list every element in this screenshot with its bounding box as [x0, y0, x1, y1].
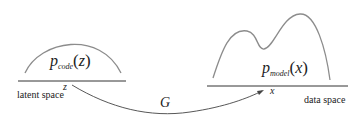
x-point-label: x: [270, 85, 274, 96]
data-space-label: data space: [304, 94, 345, 105]
arrowhead-icon: [257, 90, 264, 95]
generator-label: G: [160, 95, 170, 111]
pmodel-label: pmodel(x): [262, 58, 308, 78]
latent-space-label: latent space: [17, 89, 64, 100]
pcode-label: pcode(z): [50, 51, 91, 71]
